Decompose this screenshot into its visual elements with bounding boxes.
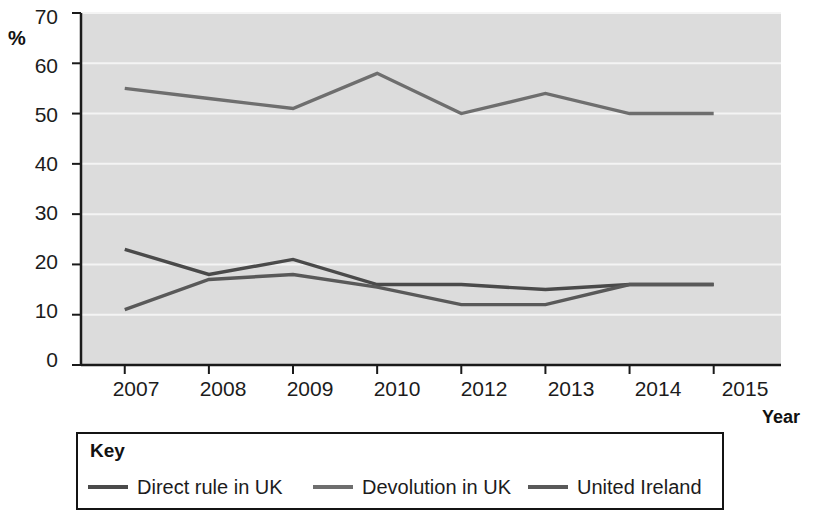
line-chart: % Year 70 60 50 40 30 20 10 0 2007 2008 … — [0, 0, 831, 519]
legend-item-united-ireland[interactable]: United Ireland — [528, 472, 702, 502]
legend-title: Key — [90, 440, 125, 462]
legend-item-devolution-in-uk[interactable]: Devolution in UK — [313, 472, 511, 502]
legend: Key Direct rule in UKDevolution in UKUni… — [76, 432, 724, 510]
legend-swatch-icon — [528, 485, 568, 489]
plot-background — [81, 13, 781, 365]
legend-swatch-icon — [88, 485, 128, 489]
legend-item-label: Devolution in UK — [362, 476, 511, 499]
legend-items: Direct rule in UKDevolution in UKUnited … — [88, 472, 718, 506]
legend-item-label: Direct rule in UK — [137, 476, 283, 499]
legend-item-label: United Ireland — [577, 476, 702, 499]
legend-item-direct-rule-in-uk[interactable]: Direct rule in UK — [88, 472, 283, 502]
legend-swatch-icon — [313, 485, 353, 489]
